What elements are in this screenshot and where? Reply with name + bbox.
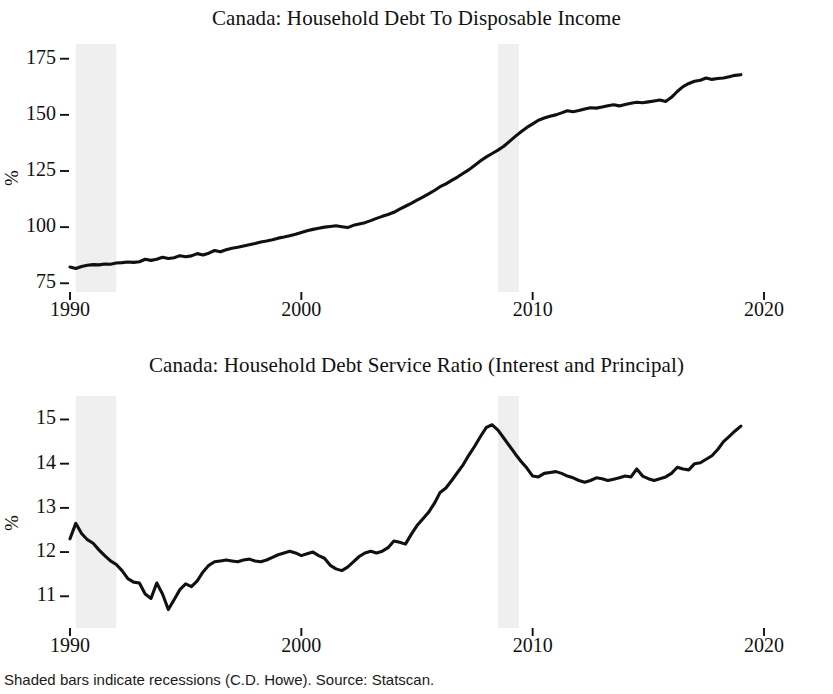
recession-band: [76, 44, 116, 292]
chart-footnote: Shaded bars indicate recessions (C.D. Ho…: [4, 671, 434, 688]
data-series-line: [70, 425, 741, 610]
x-axis-tick-label: 1990: [25, 298, 115, 321]
recession-band: [498, 44, 519, 292]
plot-svg-top: [0, 0, 833, 340]
plot-area-bottom: 11121314151990200020102020%: [0, 340, 833, 670]
y-axis-tick-label: 14: [0, 451, 56, 474]
x-axis-tick-label: 1990: [25, 634, 115, 657]
recession-band: [76, 396, 116, 628]
x-axis-tick-label: 2020: [719, 298, 809, 321]
figure-canvas: Canada: Household Debt To Disposable Inc…: [0, 0, 833, 694]
y-axis-tick-label: 100: [0, 214, 56, 237]
plot-area-top: 751001251501751990200020102020%: [0, 0, 833, 340]
y-axis-label: %: [1, 511, 23, 531]
chart-panel-household-debt-to-disposable-income: Canada: Household Debt To Disposable Inc…: [0, 0, 833, 340]
recession-band: [498, 396, 519, 628]
x-axis-tick-label: 2010: [488, 634, 578, 657]
data-series-line: [70, 75, 741, 269]
y-axis-tick-label: 15: [0, 406, 56, 429]
x-axis-tick-label: 2010: [488, 298, 578, 321]
y-axis-tick-label: 150: [0, 102, 56, 125]
y-axis-tick-label: 11: [0, 583, 56, 606]
y-axis-tick-label: 175: [0, 46, 56, 69]
x-axis-tick-label: 2000: [256, 298, 346, 321]
y-axis-label: %: [1, 166, 23, 186]
chart-panel-household-debt-service-ratio: Canada: Household Debt Service Ratio (In…: [0, 340, 833, 670]
x-axis-tick-label: 2000: [256, 634, 346, 657]
x-axis-tick-label: 2020: [719, 634, 809, 657]
y-axis-tick-label: 75: [0, 270, 56, 293]
y-axis-tick-label: 12: [0, 539, 56, 562]
plot-svg-bottom: [0, 340, 833, 670]
